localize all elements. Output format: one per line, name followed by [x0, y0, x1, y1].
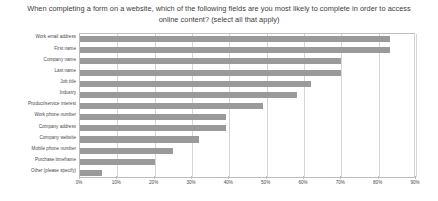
bar-row — [80, 134, 416, 144]
bar — [80, 81, 311, 87]
gridline — [416, 34, 417, 177]
category-axis-labels: Work email addressFirst nameCompany name… — [0, 33, 76, 178]
x-tick-mark — [266, 176, 267, 179]
category-label: Company address — [0, 124, 76, 130]
bar — [80, 148, 173, 154]
bar-row — [80, 168, 416, 178]
bar-row — [80, 101, 416, 111]
bar-row — [80, 146, 416, 156]
category-label: Other (please specify) — [0, 168, 76, 174]
bar-row — [80, 56, 416, 66]
plot-area — [79, 33, 415, 178]
bar-row — [80, 123, 416, 133]
bar — [80, 136, 199, 142]
bar — [80, 170, 102, 176]
x-tick-mark — [378, 176, 379, 179]
category-label: Company name — [0, 57, 76, 63]
x-tick-label: 40% — [224, 179, 233, 186]
x-tick-label: 10% — [112, 179, 121, 186]
x-tick-label: 30% — [186, 179, 195, 186]
bar-row — [80, 34, 416, 44]
x-tick-mark — [79, 176, 80, 179]
x-tick-label: 70% — [336, 179, 345, 186]
bar — [80, 36, 390, 42]
bar — [80, 70, 341, 76]
x-axis-tick-labels: 0%10%20%30%40%50%60%70%80%90% — [79, 179, 415, 193]
x-tick-mark — [191, 176, 192, 179]
bar-row — [80, 45, 416, 55]
bar-chart: When completing a form on a website, whi… — [0, 0, 438, 201]
x-tick-label: 0% — [76, 179, 83, 186]
x-tick-mark — [340, 176, 341, 179]
bar — [80, 58, 341, 64]
category-label: Work email address — [0, 34, 76, 40]
x-tick-label: 60% — [298, 179, 307, 186]
bar-row — [80, 157, 416, 167]
category-label: Purchase timeframe — [0, 157, 76, 163]
bar — [80, 114, 226, 120]
bar-row — [80, 90, 416, 100]
bar-row — [80, 79, 416, 89]
x-tick-label: 20% — [149, 179, 158, 186]
category-label: Mobile phone number — [0, 146, 76, 152]
x-tick-label: 90% — [410, 179, 419, 186]
bar — [80, 47, 390, 53]
x-tick-mark — [116, 176, 117, 179]
x-tick-mark — [303, 176, 304, 179]
category-label: Company website — [0, 135, 76, 141]
x-tick-label: 80% — [373, 179, 382, 186]
x-tick-mark — [415, 176, 416, 179]
category-label: Product/service interest — [0, 101, 76, 107]
bar-row — [80, 67, 416, 77]
x-tick-mark — [154, 176, 155, 179]
bar — [80, 125, 226, 131]
category-label: Last name — [0, 68, 76, 74]
category-label: Industry — [0, 90, 76, 96]
x-tick-label: 50% — [261, 179, 270, 186]
chart-title: When completing a form on a website, whi… — [18, 4, 420, 25]
bar-row — [80, 112, 416, 122]
category-label: Job title — [0, 79, 76, 85]
x-tick-mark — [228, 176, 229, 179]
bar — [80, 92, 297, 98]
bar — [80, 103, 263, 109]
category-label: Work phone number — [0, 112, 76, 118]
bar — [80, 159, 155, 165]
bars-layer — [80, 34, 414, 177]
category-label: First name — [0, 46, 76, 52]
